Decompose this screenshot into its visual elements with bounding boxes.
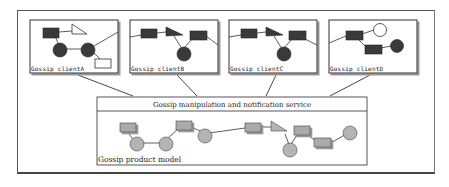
node-rect [43,28,59,38]
client-a-label: Gossip clientA [31,65,85,73]
client-b-box: Gossip clientB [130,20,218,73]
node-rect [95,59,111,68]
client-b-label: Gossip clientB [131,65,185,73]
service-label: Gossip manipulation and notification ser… [153,101,311,109]
client-c-box: Gossip clientC [229,20,317,73]
client-d-box: Gossip clientD [329,20,417,73]
model-label: Gossip product model [98,155,182,164]
node-circle [53,43,67,57]
client-a-box: Gossip clientA [30,20,118,73]
node-circle [81,43,95,57]
client-c-label: Gossip clientC [230,65,284,73]
connectors [78,75,370,96]
client-d-label: Gossip clientD [330,65,384,73]
